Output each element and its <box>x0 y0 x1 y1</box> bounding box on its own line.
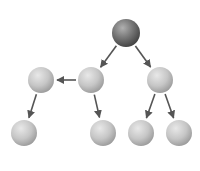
edge-arrow-n3-to-n6 <box>146 94 155 118</box>
tree-node-n1 <box>28 67 54 93</box>
edge-arrow-root-to-n3 <box>135 46 150 67</box>
edge-arrow-n1-to-n4 <box>29 94 37 118</box>
tree-node-n7 <box>166 120 192 146</box>
root-node <box>112 19 140 47</box>
tree-node-n5 <box>90 120 116 146</box>
edge-arrow-n3-to-n7 <box>165 94 174 118</box>
tree-node-n4 <box>11 120 37 146</box>
tree-diagram <box>0 0 200 171</box>
tree-node-n3 <box>147 67 173 93</box>
tree-node-n2 <box>78 67 104 93</box>
nodes-group <box>11 19 192 146</box>
edge-arrow-root-to-n2 <box>101 46 117 67</box>
tree-node-n6 <box>128 120 154 146</box>
edge-arrow-n2-to-n5 <box>94 95 99 118</box>
